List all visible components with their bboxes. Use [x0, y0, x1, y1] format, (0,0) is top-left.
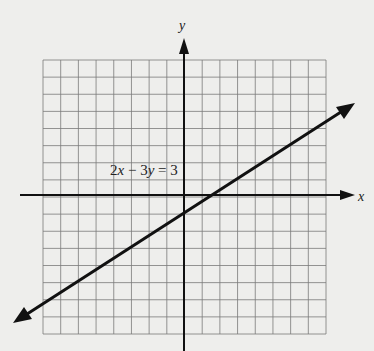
line-arrow-upper-icon	[336, 103, 355, 119]
graph-canvas: x y 2x − 3y = 3	[0, 0, 374, 351]
y-axis-arrow-icon	[179, 38, 189, 54]
x-axis-arrow-icon	[340, 190, 355, 200]
equation-label: 2x − 3y = 3	[110, 162, 178, 178]
y-axis-label: y	[177, 18, 186, 33]
line-arrow-lower-icon	[13, 307, 32, 323]
x-axis-label: x	[357, 189, 365, 204]
